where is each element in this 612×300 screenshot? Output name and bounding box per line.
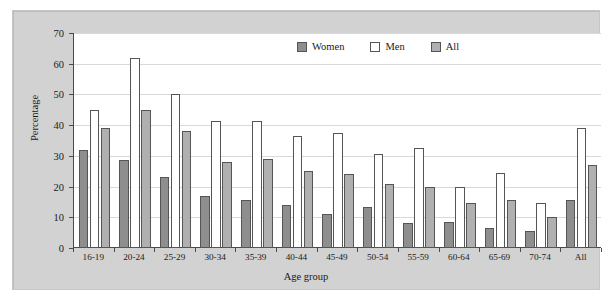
bar-all-25-29	[182, 131, 192, 248]
bar-group	[525, 33, 557, 248]
x-axis-tick-label: 70-74	[520, 252, 561, 262]
chart-panel: Percentage 010203040506070 16-1920-2425-…	[12, 10, 600, 290]
x-axis-tick-mark	[520, 248, 521, 252]
x-axis-tick-mark	[154, 248, 155, 252]
bar-all-60-64	[466, 203, 476, 248]
bar-men-30-34	[211, 121, 221, 248]
bar-group	[241, 33, 273, 248]
bar-all-16-19	[101, 128, 111, 248]
bar-women-50-54	[363, 207, 373, 248]
bar-group	[322, 33, 354, 248]
bar-group	[363, 33, 395, 248]
bar-group	[200, 33, 232, 248]
y-axis-tick-mark	[69, 156, 73, 157]
y-axis-tick-label: 50	[40, 89, 64, 100]
y-axis-tick-mark	[69, 187, 73, 188]
x-axis-title: Age group	[13, 271, 599, 282]
y-axis-tick-mark	[69, 94, 73, 95]
bar-group	[160, 33, 192, 248]
x-axis-tick-label: 30-34	[195, 252, 236, 262]
y-axis-tick-label: 0	[40, 243, 64, 254]
bar-men-45-49	[333, 133, 343, 248]
bar-women-25-29	[160, 177, 170, 248]
y-axis-tick-mark	[69, 33, 73, 34]
bar-all-20-24	[141, 110, 151, 248]
bar-series-container	[74, 33, 601, 248]
bar-women-65-69	[485, 228, 495, 248]
chart-legend: WomenMenAll	[297, 41, 459, 52]
x-axis-tick-mark	[317, 248, 318, 252]
y-axis-tick-label: 10	[40, 212, 64, 223]
bar-all-50-54	[385, 184, 395, 249]
x-axis-tick-mark	[357, 248, 358, 252]
legend-swatch-icon	[370, 42, 380, 52]
bar-all-70-74	[547, 217, 557, 248]
y-axis-tick-label: 70	[40, 28, 64, 39]
bar-men-20-24	[130, 58, 140, 248]
x-axis-tick-label: 25-29	[154, 252, 195, 262]
bar-all-35-39	[263, 159, 273, 248]
bar-men-70-74	[536, 203, 546, 248]
x-axis-tick-mark	[479, 248, 480, 252]
x-axis-tick-mark	[73, 248, 74, 252]
x-axis-tick-label: 20-24	[114, 252, 155, 262]
bar-all-30-34	[222, 162, 232, 248]
bar-group	[566, 33, 598, 248]
x-axis-tick-mark	[276, 248, 277, 252]
y-axis-tick-mark	[69, 217, 73, 218]
bar-all-55-59	[425, 187, 435, 248]
bar-group	[485, 33, 517, 248]
y-axis-tick-mark	[69, 64, 73, 65]
bar-men-50-54	[374, 154, 384, 248]
legend-item-all: All	[431, 41, 459, 52]
x-axis-tick-mark	[235, 248, 236, 252]
x-axis-tick-label: 50-54	[357, 252, 398, 262]
legend-swatch-icon	[297, 42, 307, 52]
bar-men-65-69	[496, 173, 506, 248]
legend-swatch-icon	[431, 42, 441, 52]
bar-group	[282, 33, 314, 248]
x-axis-tick-label: 45-49	[317, 252, 358, 262]
x-axis-tick-label: 40-44	[276, 252, 317, 262]
bar-chart-figure: Percentage 010203040506070 16-1920-2425-…	[0, 0, 612, 300]
y-axis-title: Percentage	[29, 95, 40, 141]
y-axis-tick-label: 60	[40, 58, 64, 69]
bar-all-40-44	[304, 171, 314, 248]
bar-men-55-59	[414, 148, 424, 248]
bar-women-60-64	[444, 222, 454, 248]
x-axis-tick-label: All	[560, 252, 601, 262]
bar-women-70-74	[525, 231, 535, 248]
legend-label: Women	[312, 41, 344, 52]
bar-women-20-24	[119, 160, 129, 248]
legend-label: Men	[385, 41, 404, 52]
bar-women-30-34	[200, 196, 210, 248]
x-axis-tick-label: 16-19	[73, 252, 114, 262]
x-axis-tick-mark	[439, 248, 440, 252]
x-axis-tick-label: 55-59	[398, 252, 439, 262]
y-axis-tick-label: 40	[40, 120, 64, 131]
x-axis-tick-mark	[398, 248, 399, 252]
x-axis-tick-mark	[114, 248, 115, 252]
bar-women-45-49	[322, 214, 332, 248]
legend-label: All	[446, 41, 459, 52]
bar-all-45-49	[344, 174, 354, 248]
bar-women-35-39	[241, 200, 251, 248]
x-axis-tick-label: 65-69	[479, 252, 520, 262]
x-axis-tick-label: 60-64	[439, 252, 480, 262]
legend-item-men: Men	[370, 41, 404, 52]
bar-group	[444, 33, 476, 248]
y-axis-tick-label: 20	[40, 181, 64, 192]
bar-women-16-19	[79, 150, 89, 248]
x-axis-tick-mark	[195, 248, 196, 252]
bar-all-All	[588, 165, 598, 248]
bar-women-55-59	[403, 223, 413, 248]
bar-women-All	[566, 200, 576, 248]
legend-item-women: Women	[297, 41, 344, 52]
bar-men-60-64	[455, 187, 465, 248]
bar-group	[403, 33, 435, 248]
bar-all-65-69	[507, 200, 517, 248]
x-axis-tick-mark	[560, 248, 561, 252]
y-axis-tick-mark	[69, 125, 73, 126]
bar-group	[79, 33, 111, 248]
y-axis-tick-label: 30	[40, 150, 64, 161]
